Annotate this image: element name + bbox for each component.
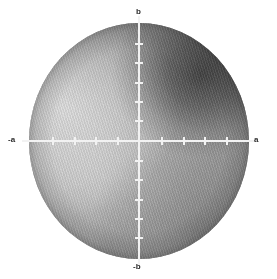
b-axis-tick [135,218,143,220]
b-axis-line [138,16,140,266]
b-axis-tick [135,160,143,162]
b-axis-tick [135,199,143,201]
figure-canvas: a -a b -b [0,0,277,279]
b-axis-tick [135,120,143,122]
b-axis-tick [135,43,143,45]
b-axis-tick [135,62,143,64]
a-axis-tick [183,137,185,145]
a-axis-tick [204,137,206,145]
b-axis-tick [135,237,143,239]
axis-label-b-positive: b [136,8,141,16]
b-axis-tick [135,101,143,103]
a-axis-tick [226,137,228,145]
a-axis-tick [117,137,119,145]
a-axis-tick [52,137,54,145]
a-axis-tick [161,137,163,145]
axis-label-b-negative: -b [133,263,141,271]
axis-label-a-positive: a [254,136,258,144]
a-axis-tick [74,137,76,145]
b-axis-tick [135,82,143,84]
b-axis-tick [135,179,143,181]
a-axis-tick [95,137,97,145]
axis-label-a-negative: -a [8,136,15,144]
